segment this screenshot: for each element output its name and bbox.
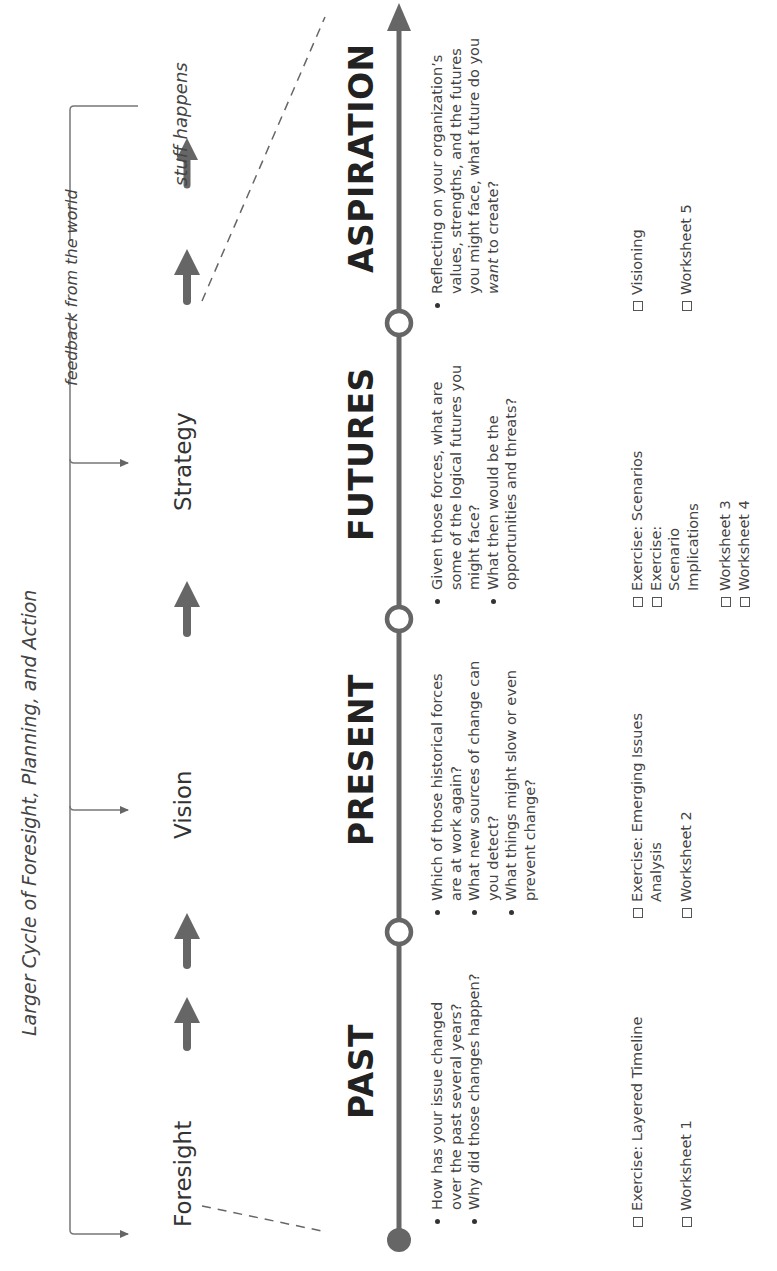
arrow-strategy-outcome-icon — [172, 247, 202, 307]
question-item: Given those forces, what are some of the… — [428, 342, 484, 590]
futures-questions: Given those forces, what are some of the… — [428, 342, 521, 607]
futures-exercises: Exercise: Scenarios Exercise: Scenario I… — [628, 407, 753, 607]
present-exercises: Exercise: Emerging Issues Analysis Works… — [628, 688, 696, 918]
aspiration-questions: Reflecting on your organization’s values… — [428, 21, 502, 311]
question-item: How has your issue changed over the past… — [428, 972, 465, 1210]
exercise-checkbox-item[interactable]: Visioning — [628, 111, 647, 311]
worksheet-checkbox-item[interactable]: Worksheet 2 — [677, 688, 696, 918]
stage-vision: Vision — [170, 770, 196, 839]
exercise-checkbox-item[interactable]: Exercise: Scenarios — [628, 407, 647, 607]
present-questions: Which of those historical forces are at … — [428, 656, 539, 918]
arrow-foresight-vision-icon — [172, 911, 202, 971]
worksheet-checkbox-item[interactable]: Worksheet 4 — [735, 407, 754, 607]
question-item: What things might slow or even prevent c… — [502, 656, 539, 901]
question-item: What new sources of change can you detec… — [465, 656, 502, 901]
arrow-vision-strategy-icon — [172, 579, 202, 639]
question-item: Reflecting on your organization’s values… — [428, 21, 502, 294]
question-item: What then would be the opportunities and… — [484, 342, 521, 590]
worksheet-checkbox-item[interactable]: Worksheet 5 — [677, 111, 696, 311]
checkbox-icon[interactable] — [633, 908, 643, 918]
checkbox-icon[interactable] — [721, 597, 731, 607]
phase-present-label: PRESENT — [342, 674, 381, 846]
stage-strategy: Strategy — [170, 412, 196, 511]
past-exercises: Exercise: Layered Timeline Worksheet 1 — [628, 967, 695, 1227]
checkbox-icon[interactable] — [652, 597, 662, 607]
checkbox-icon[interactable] — [682, 908, 692, 918]
question-item: Why did those changes happen? — [465, 972, 484, 1210]
exercise-checkbox-item[interactable]: Exercise: Scenario Implications — [647, 461, 703, 607]
foresight-timeline-diagram: Larger Cycle of Foresight, Planning, and… — [0, 0, 777, 1271]
checkbox-icon[interactable] — [682, 1217, 692, 1227]
emphasis-want: want — [485, 258, 501, 294]
exercise-checkbox-item[interactable]: Exercise: Emerging Issues Analysis — [628, 688, 665, 918]
phase-futures-label: FUTURES — [342, 367, 381, 541]
exercise-checkbox-item[interactable]: Exercise: Layered Timeline — [628, 967, 647, 1227]
larger-cycle-title: Larger Cycle of Foresight, Planning, and… — [18, 590, 40, 1036]
worksheet-checkbox-item[interactable]: Worksheet 1 — [677, 967, 696, 1227]
past-questions: How has your issue changed over the past… — [428, 972, 484, 1227]
stage-foresight: Foresight — [170, 1121, 196, 1227]
aspiration-exercises: Visioning Worksheet 5 — [628, 111, 695, 311]
question-item: Which of those historical forces are at … — [428, 656, 465, 901]
worksheet-checkbox-item[interactable]: Worksheet 3 — [716, 407, 735, 607]
phase-past-label: PAST — [342, 1024, 381, 1119]
checkbox-icon[interactable] — [740, 597, 750, 607]
checkbox-icon[interactable] — [682, 301, 692, 311]
checkbox-icon[interactable] — [633, 597, 643, 607]
checkbox-icon[interactable] — [633, 301, 643, 311]
phase-aspiration-label: ASPIRATION — [342, 43, 381, 273]
feedback-label: feedback from the world — [62, 189, 81, 386]
checkbox-icon[interactable] — [633, 1217, 643, 1227]
stuff-happens-label: stuff happens — [170, 62, 191, 186]
